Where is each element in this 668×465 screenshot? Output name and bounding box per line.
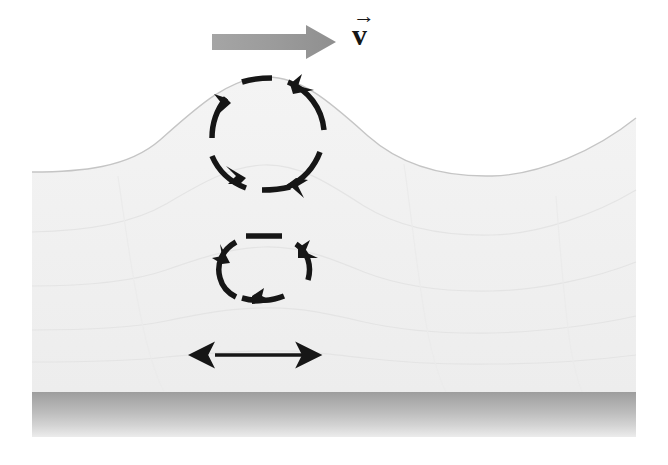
propagation-arrow-shape [212,25,336,59]
seabed-band [32,392,636,437]
water-fill [32,77,636,392]
seabed [32,392,636,437]
propagation-arrow [212,25,336,59]
upper-orbit-arc-bottom [262,187,290,190]
velocity-vector-label: → v [352,20,367,50]
diagram-canvas [0,0,668,465]
vector-arrow-accent-icon: → [353,5,375,27]
wave-orbital-motion-figure: → v [0,0,668,465]
water-body [32,77,636,392]
